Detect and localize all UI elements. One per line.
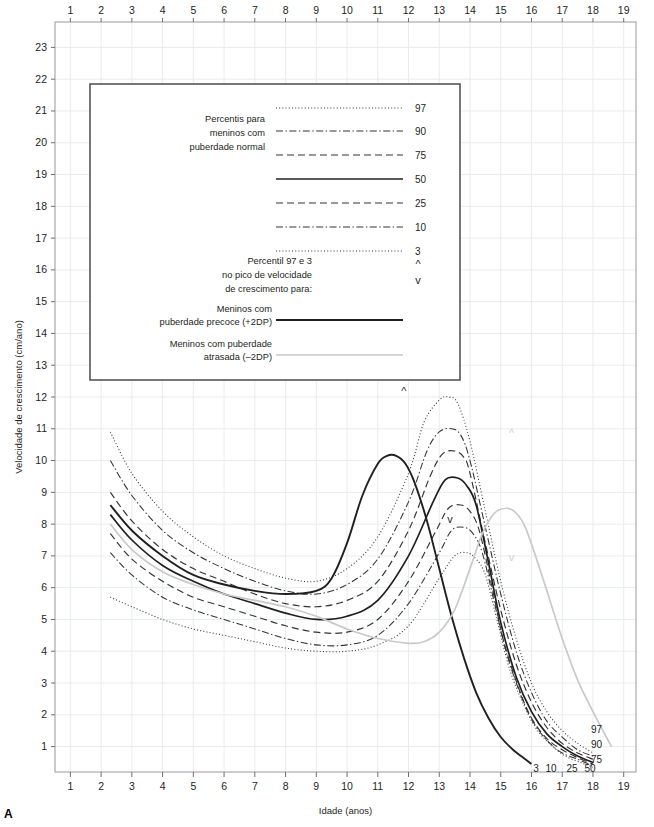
y-tick-label: 12 bbox=[35, 391, 47, 403]
x-tick-label-bottom: 9 bbox=[313, 780, 319, 792]
x-tick-label-top: 9 bbox=[313, 4, 319, 16]
y-tick-label: 7 bbox=[41, 549, 47, 561]
y-tick-label: 13 bbox=[35, 359, 47, 371]
y-tick-label: 8 bbox=[41, 518, 47, 530]
x-tick-label-bottom: 1 bbox=[67, 780, 73, 792]
x-axis-title: Idade (anos) bbox=[319, 805, 372, 816]
x-tick-label-bottom: 13 bbox=[433, 780, 445, 792]
x-tick-label-top: 13 bbox=[433, 4, 445, 16]
x-tick-label-top: 5 bbox=[190, 4, 196, 16]
x-tick-label-top: 4 bbox=[160, 4, 166, 16]
x-tick-label-top: 15 bbox=[495, 4, 507, 16]
x-tick-label-top: 19 bbox=[618, 4, 630, 16]
curve-97 bbox=[110, 397, 593, 753]
y-tick-label: 9 bbox=[41, 486, 47, 498]
legend-label-90: 90 bbox=[415, 126, 427, 137]
x-tick-label-bottom: 14 bbox=[464, 780, 476, 792]
x-tick-label-bottom: 18 bbox=[587, 780, 599, 792]
legend-normal-title-line: Percentis para bbox=[205, 114, 266, 124]
y-tick-label: 5 bbox=[41, 613, 47, 625]
y-tick-label: 23 bbox=[35, 41, 47, 53]
curve-75 bbox=[110, 451, 593, 760]
legend-precoce-line: Meninos com bbox=[217, 304, 273, 314]
end-label-97: 97 bbox=[591, 724, 603, 735]
curve-3 bbox=[110, 552, 593, 767]
marker-atrasada-97-up: ^ bbox=[509, 427, 515, 439]
legend-label-75: 75 bbox=[415, 150, 427, 161]
x-tick-label-bottom: 2 bbox=[98, 780, 104, 792]
legend-normal-title-line: meninos com bbox=[210, 128, 266, 138]
end-label-90: 90 bbox=[591, 739, 603, 750]
y-tick-label: 18 bbox=[35, 200, 47, 212]
x-tick-label-bottom: 10 bbox=[341, 780, 353, 792]
marker-atrasada-3-down: v bbox=[509, 551, 515, 563]
legend-label-3: 3 bbox=[415, 246, 421, 257]
legend-caret-up: ^ bbox=[415, 258, 421, 270]
y-tick-label: 10 bbox=[35, 454, 47, 466]
x-tick-label-bottom: 5 bbox=[190, 780, 196, 792]
curves bbox=[110, 397, 611, 768]
y-axis-title: Velocidade de crescimento (cm/ano) bbox=[13, 320, 24, 474]
curve-25 bbox=[110, 505, 593, 764]
legend: Percentis parameninos compuberdade norma… bbox=[90, 84, 460, 380]
y-tick-label: 22 bbox=[35, 73, 47, 85]
y-tick-label: 21 bbox=[35, 104, 47, 116]
x-tick-label-top: 16 bbox=[526, 4, 538, 16]
y-tick-label: 4 bbox=[41, 645, 47, 657]
y-tick-label: 15 bbox=[35, 295, 47, 307]
y-tick-label: 16 bbox=[35, 263, 47, 275]
x-tick-label-top: 7 bbox=[252, 4, 258, 16]
marker-precoce-3-down: v bbox=[447, 513, 453, 525]
end-label-50: 50 bbox=[584, 763, 596, 774]
end-label-3: 3 bbox=[533, 763, 539, 774]
x-tick-label-bottom: 3 bbox=[129, 780, 135, 792]
x-tick-label-bottom: 6 bbox=[221, 780, 227, 792]
legend-label-50: 50 bbox=[415, 174, 427, 185]
x-tick-label-top: 18 bbox=[587, 4, 599, 16]
legend-atrasada-line: Meninos com puberdade bbox=[170, 339, 272, 349]
y-tick-label: 20 bbox=[35, 136, 47, 148]
chart-svg: 1122334455667788991010111112121313141415… bbox=[0, 0, 654, 827]
legend-label-25: 25 bbox=[415, 198, 427, 209]
panel-label: A bbox=[4, 807, 13, 821]
x-tick-label-top: 6 bbox=[221, 4, 227, 16]
x-tick-label-top: 11 bbox=[372, 4, 383, 16]
x-tick-label-top: 14 bbox=[464, 4, 476, 16]
legend-label-10: 10 bbox=[415, 222, 427, 233]
curve-end-labels: 9790753102550 bbox=[533, 724, 602, 774]
legend-peak-title-line: de crescimento para: bbox=[225, 284, 312, 294]
end-label-25: 25 bbox=[566, 763, 578, 774]
x-tick-label-top: 1 bbox=[67, 4, 73, 16]
y-tick-label: 1 bbox=[41, 740, 47, 752]
legend-box bbox=[90, 84, 460, 380]
legend-precoce-line: puberdade precoce (+2DP) bbox=[160, 317, 272, 327]
y-tick-label: 19 bbox=[35, 168, 47, 180]
x-tick-label-bottom: 7 bbox=[252, 780, 258, 792]
y-tick-label: 2 bbox=[41, 708, 47, 720]
growth-velocity-chart: 1122334455667788991010111112121313141415… bbox=[0, 0, 654, 827]
marker-precoce-97-up: ^ bbox=[401, 385, 407, 397]
x-tick-label-bottom: 17 bbox=[556, 780, 568, 792]
legend-normal-title-line: puberdade normal bbox=[190, 142, 265, 152]
x-tick-label-bottom: 12 bbox=[403, 780, 415, 792]
x-tick-label-top: 10 bbox=[341, 4, 353, 16]
x-tick-label-top: 12 bbox=[403, 4, 415, 16]
x-tick-label-bottom: 16 bbox=[526, 780, 538, 792]
x-tick-label-bottom: 11 bbox=[372, 780, 383, 792]
y-tick-label: 14 bbox=[35, 327, 47, 339]
x-tick-label-bottom: 8 bbox=[283, 780, 289, 792]
legend-peak-title-line: Percentil 97 e 3 bbox=[247, 256, 312, 266]
end-label-10: 10 bbox=[545, 763, 557, 774]
y-tick-label: 3 bbox=[41, 677, 47, 689]
y-tick-label: 6 bbox=[41, 581, 47, 593]
x-tick-label-top: 3 bbox=[129, 4, 135, 16]
y-tick-label: 11 bbox=[36, 422, 47, 434]
curve-puberdade-precoce-2dp- bbox=[110, 455, 531, 764]
x-tick-label-bottom: 4 bbox=[160, 780, 166, 792]
y-tick-label: 17 bbox=[35, 232, 47, 244]
x-tick-label-top: 17 bbox=[556, 4, 568, 16]
x-tick-label-top: 2 bbox=[98, 4, 104, 16]
legend-label-97: 97 bbox=[415, 103, 427, 114]
x-tick-label-top: 8 bbox=[283, 4, 289, 16]
legend-atrasada-line: atrasada (–2DP) bbox=[204, 352, 272, 362]
